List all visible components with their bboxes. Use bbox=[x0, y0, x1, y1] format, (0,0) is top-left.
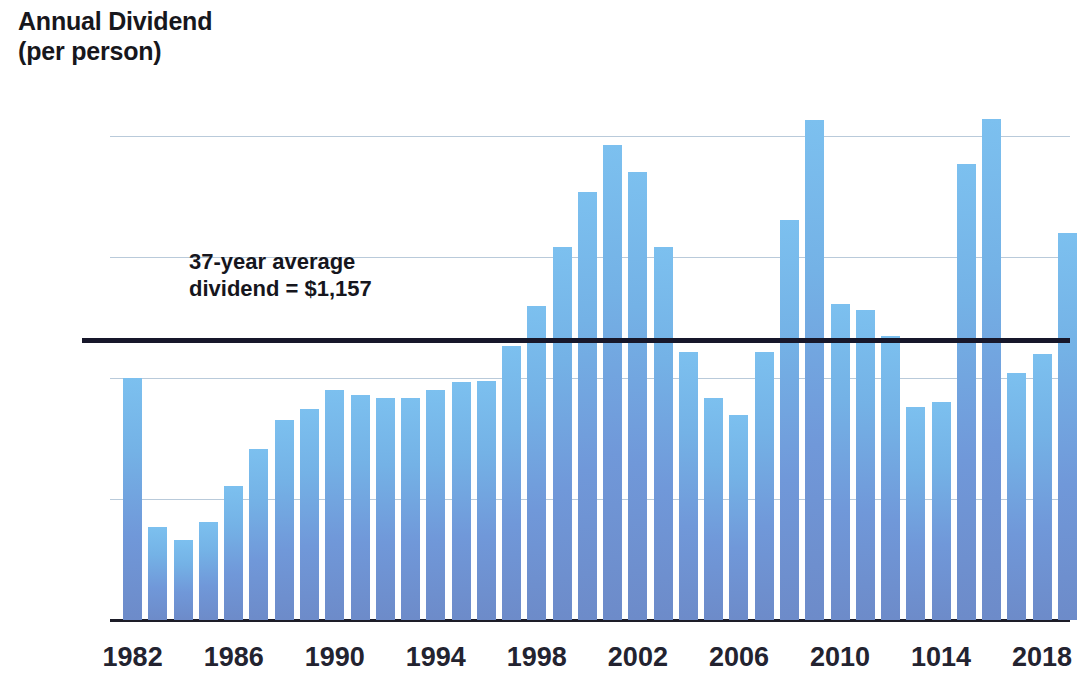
x-tick-label: 1982 bbox=[103, 642, 163, 673]
bar-2009 bbox=[805, 120, 824, 620]
bar-1996 bbox=[477, 381, 496, 620]
bar-2007 bbox=[755, 352, 774, 620]
x-tick-label: 2002 bbox=[608, 642, 668, 673]
plot-area bbox=[110, 100, 1070, 620]
x-tick-label: 1990 bbox=[305, 642, 365, 673]
bar-2012 bbox=[881, 336, 900, 620]
bar-1014 bbox=[932, 402, 951, 620]
page-title: Annual Dividend bbox=[18, 6, 438, 36]
x-tick-label: 1986 bbox=[204, 642, 264, 673]
bar-2015 bbox=[957, 164, 976, 620]
x-tick-label: 2006 bbox=[709, 642, 769, 673]
bar-2016 bbox=[982, 119, 1001, 620]
bar-1993 bbox=[401, 398, 420, 620]
bar-1998 bbox=[527, 306, 546, 620]
bar-undefined bbox=[1058, 233, 1077, 620]
bar-2013 bbox=[906, 407, 925, 620]
bar-1989 bbox=[300, 409, 319, 620]
bar-2017 bbox=[1007, 373, 1026, 620]
bar-1982 bbox=[123, 378, 142, 620]
bar-2003 bbox=[654, 247, 673, 620]
bar-1995 bbox=[452, 382, 471, 620]
x-tick-label: 1994 bbox=[406, 642, 466, 673]
bar-1999 bbox=[553, 247, 572, 620]
x-axis: 1982198619901994199820022006201010142018 bbox=[110, 642, 1070, 682]
annotation-line-2: dividend = $1,157 bbox=[189, 275, 372, 302]
x-tick-label: 1014 bbox=[911, 642, 971, 673]
bar-1986 bbox=[224, 486, 243, 620]
bar-2008 bbox=[780, 220, 799, 620]
bar-2005 bbox=[704, 398, 723, 621]
bar-1992 bbox=[376, 398, 395, 620]
bar-2006 bbox=[729, 415, 748, 620]
x-tick-label: 2018 bbox=[1012, 642, 1072, 673]
bar-2001 bbox=[603, 145, 622, 620]
bar-1985 bbox=[199, 522, 218, 620]
bar-1984 bbox=[174, 540, 193, 620]
bar-2011 bbox=[856, 310, 875, 620]
bar-2000 bbox=[578, 192, 597, 620]
bar-2002 bbox=[628, 172, 647, 620]
bar-2010 bbox=[831, 304, 850, 620]
average-dividend-annotation: 37-year average dividend = $1,157 bbox=[189, 248, 372, 302]
bar-1991 bbox=[351, 395, 370, 620]
bar-1997 bbox=[502, 346, 521, 620]
x-tick-label: 1998 bbox=[507, 642, 567, 673]
average-dividend-line bbox=[82, 338, 1070, 343]
bar-1987 bbox=[249, 449, 268, 620]
bars-layer bbox=[110, 100, 1070, 620]
bar-2004 bbox=[679, 352, 698, 620]
annotation-line-1: 37-year average bbox=[189, 248, 372, 275]
bar-1994 bbox=[426, 390, 445, 620]
chart-title-block: Annual Dividend (per person) bbox=[18, 6, 438, 66]
bar-1988 bbox=[275, 420, 294, 620]
chart-subtitle: (per person) bbox=[18, 36, 438, 66]
bar-2018 bbox=[1033, 354, 1052, 620]
x-tick-label: 2010 bbox=[810, 642, 870, 673]
bar-1983 bbox=[148, 527, 167, 620]
bar-1990 bbox=[325, 390, 344, 620]
